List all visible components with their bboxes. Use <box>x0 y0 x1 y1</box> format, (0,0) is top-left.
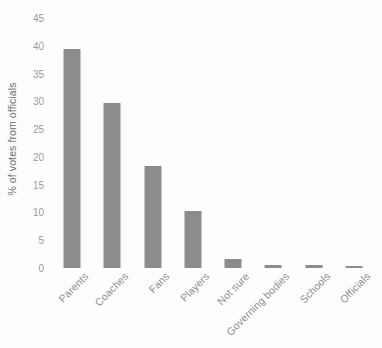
x-axis-tick-coaches: Coaches <box>93 270 131 308</box>
bar-schools[interactable] <box>305 265 322 268</box>
y-axis-tick-15: 15 <box>33 179 44 190</box>
plot-area <box>52 18 374 268</box>
y-axis-tick-35: 35 <box>33 68 44 79</box>
bar-parents[interactable] <box>64 49 81 268</box>
y-axis-tick-20: 20 <box>33 151 44 162</box>
bar-slot <box>334 18 374 268</box>
y-axis-title: % of votes from officials <box>0 0 24 278</box>
y-axis-tick-5: 5 <box>38 235 44 246</box>
bar-slot <box>294 18 334 268</box>
x-axis-tick-players: Players <box>178 270 212 304</box>
bar-players[interactable] <box>184 211 201 268</box>
bar-officials[interactable] <box>345 266 362 268</box>
bar-slot <box>173 18 213 268</box>
bar-slot <box>213 18 253 268</box>
y-axis-tick-10: 10 <box>33 207 44 218</box>
bar-governing-bodies[interactable] <box>265 265 282 268</box>
bar-chart: % of votes from officials 45403530252015… <box>0 0 382 348</box>
bar-not-sure[interactable] <box>225 259 242 268</box>
bar-coaches[interactable] <box>104 103 121 268</box>
y-axis-tick-labels: 454035302520151050 <box>24 0 48 278</box>
y-axis-title-text: % of votes from officials <box>6 82 18 195</box>
y-axis-tick-40: 40 <box>33 40 44 51</box>
bar-slot <box>133 18 173 268</box>
bar-slot <box>92 18 132 268</box>
x-axis-tick-officials: Officials <box>337 270 372 305</box>
x-axis-tick-labels: ParentsCoachesFansPlayersNot sureGoverni… <box>52 270 374 348</box>
y-axis-tick-45: 45 <box>33 13 44 24</box>
y-axis-tick-30: 30 <box>33 96 44 107</box>
x-axis-tick-parents: Parents <box>56 270 91 305</box>
bar-slot <box>253 18 293 268</box>
x-axis-tick-fans: Fans <box>146 270 171 295</box>
x-axis-tick-not-sure: Not sure <box>214 270 251 307</box>
y-axis-tick-0: 0 <box>38 263 44 274</box>
x-axis-tick-schools: Schools <box>297 270 332 305</box>
y-axis-tick-25: 25 <box>33 124 44 135</box>
bar-slot <box>52 18 92 268</box>
bar-fans[interactable] <box>144 166 161 268</box>
